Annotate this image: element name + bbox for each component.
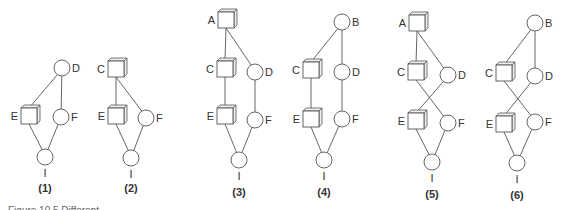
cube-node-icon xyxy=(409,15,425,31)
diagram-3: ACDEFI(3) xyxy=(206,9,273,198)
lattice-diagrams-figure: DEFI(1)CEFI(2)ACDEFI(3)BCDEFI(4)ACDEFI(5… xyxy=(0,0,564,210)
node-f: F xyxy=(247,112,272,128)
node-label: B xyxy=(545,17,552,29)
node-c: C xyxy=(97,58,127,77)
node-label: I xyxy=(430,172,433,184)
node-a: A xyxy=(208,9,237,28)
node-d: D xyxy=(440,67,466,83)
node-label: I xyxy=(43,167,46,179)
node-label: F xyxy=(458,117,465,129)
diagram-number-label: (6) xyxy=(510,189,524,201)
node-i: I xyxy=(424,154,440,184)
node-label: F xyxy=(71,111,78,123)
cube-side-face xyxy=(425,12,428,31)
circle-node-icon xyxy=(247,64,263,80)
node-c: C xyxy=(397,61,427,80)
node-label: E xyxy=(486,118,493,130)
node-i: I xyxy=(37,149,53,179)
node-label: C xyxy=(292,64,300,76)
diagram-number-label: (1) xyxy=(38,182,52,194)
node-label: B xyxy=(352,16,359,28)
node-label: E xyxy=(398,115,405,127)
node-d: D xyxy=(54,60,80,76)
cube-node-icon xyxy=(496,65,512,81)
diagram-1: DEFI(1) xyxy=(11,60,80,194)
diagram-6: BCDEFI(6) xyxy=(485,15,553,201)
node-i: I xyxy=(509,155,525,185)
cube-side-face xyxy=(37,105,40,124)
edge-b-c xyxy=(504,30,531,65)
node-label: A xyxy=(208,14,216,26)
node-i: I xyxy=(123,150,139,180)
edge-f-i xyxy=(48,124,58,149)
edge-b-c xyxy=(311,29,338,62)
node-e: E xyxy=(293,108,322,127)
node-c: C xyxy=(485,62,515,81)
figure-caption: Figure 10.5 Different ... xyxy=(8,205,110,210)
edge-c-f xyxy=(504,81,531,115)
edge-d-e xyxy=(416,82,443,113)
edge-e-i xyxy=(311,127,322,152)
cube-node-icon xyxy=(408,64,424,80)
node-b: B xyxy=(527,15,552,31)
node-b: B xyxy=(334,14,359,30)
circle-node-icon xyxy=(424,154,440,170)
diagrams-layer: DEFI(1)CEFI(2)ACDEFI(3)BCDEFI(4)ACDEFI(5… xyxy=(11,9,553,201)
node-label: D xyxy=(352,66,360,78)
node-label: F xyxy=(352,113,359,125)
node-f: F xyxy=(527,114,552,130)
node-label: D xyxy=(72,62,80,74)
circle-node-icon xyxy=(527,68,543,84)
edge-e-i xyxy=(225,124,237,152)
node-label: E xyxy=(98,110,105,122)
cube-node-icon xyxy=(217,61,233,77)
cube-node-icon xyxy=(108,61,124,77)
cube-node-icon xyxy=(408,113,424,129)
diagram-number-label: (5) xyxy=(425,188,439,200)
cube-node-icon xyxy=(217,108,233,124)
node-label: C xyxy=(206,63,214,75)
node-d: D xyxy=(334,64,360,80)
edge-f-i xyxy=(134,125,143,150)
edge-e-i xyxy=(116,124,128,150)
edge-d-e xyxy=(29,75,57,108)
node-e: E xyxy=(207,105,236,124)
circle-node-icon xyxy=(316,152,332,168)
cube-node-icon xyxy=(21,108,37,124)
diagram-4: BCDEFI(4) xyxy=(292,14,360,198)
node-label: I xyxy=(322,170,325,182)
node-label: F xyxy=(545,116,552,128)
node-label: C xyxy=(97,63,105,75)
edge-e-i xyxy=(416,129,429,155)
cube-side-face xyxy=(424,110,427,129)
circle-node-icon xyxy=(440,115,456,131)
edge-d-e xyxy=(504,83,531,116)
circle-node-icon xyxy=(54,60,70,76)
edge-e-i xyxy=(29,124,42,150)
cube-side-face xyxy=(319,108,322,127)
cube-node-icon xyxy=(496,116,512,132)
node-f: F xyxy=(440,115,465,131)
cube-node-icon xyxy=(303,111,319,127)
edge-f-i xyxy=(435,130,445,154)
cube-side-face xyxy=(512,62,515,81)
circle-node-icon xyxy=(247,112,263,128)
node-i: I xyxy=(316,152,332,182)
circle-node-icon xyxy=(527,15,543,31)
cube-side-face xyxy=(319,59,322,78)
cube-node-icon xyxy=(303,62,319,78)
cube-side-face xyxy=(424,61,427,80)
node-label: A xyxy=(399,17,407,29)
circle-node-icon xyxy=(231,152,247,168)
node-c: C xyxy=(206,58,236,77)
node-label: E xyxy=(207,110,214,122)
circle-node-icon xyxy=(509,155,525,171)
node-e: E xyxy=(11,105,40,124)
circle-node-icon xyxy=(37,149,53,165)
node-f: F xyxy=(334,111,359,127)
edge-e-i xyxy=(504,132,514,155)
cube-node-icon xyxy=(108,108,124,124)
node-label: E xyxy=(11,110,18,122)
edge-a-c xyxy=(416,31,417,64)
diagram-number-label: (2) xyxy=(124,182,138,194)
